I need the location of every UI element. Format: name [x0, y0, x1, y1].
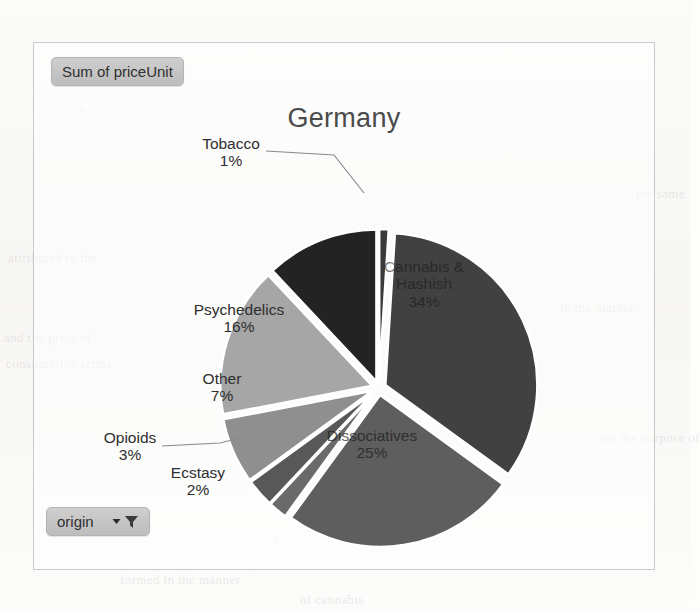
- slice-label-ecstasy: Ecstasy 2%: [154, 464, 242, 499]
- slice-label-other: Other 7%: [182, 370, 262, 405]
- origin-filter-label: origin: [57, 513, 94, 530]
- slice-label-opioids: Opioids 3%: [90, 429, 170, 464]
- chevron-down-icon[interactable]: [112, 518, 121, 525]
- pie-svg: [34, 43, 656, 571]
- slice-label-psychedelics: Psychedelics 16%: [174, 301, 304, 336]
- leader-line-tobacco: [266, 151, 364, 193]
- bleed-text: formed in the manner: [120, 572, 240, 588]
- slice-label-dissociatives: Dissociatives 25%: [302, 427, 442, 462]
- origin-filter-button[interactable]: origin: [46, 507, 150, 536]
- bleed-text: of cannabis: [300, 592, 364, 608]
- slice-label-cannabis-hashish: Cannabis & Hashish 34%: [364, 258, 484, 310]
- pivot-chart-frame[interactable]: Sum of priceUnit Germany Tobacco 1% Psyc…: [33, 42, 655, 570]
- funnel-filter-icon[interactable]: [124, 514, 139, 529]
- filter-icon-group[interactable]: [112, 514, 139, 529]
- slice-label-tobacco: Tobacco 1%: [186, 135, 276, 170]
- pie-chart[interactable]: Tobacco 1% Psychedelics 16% Other 7% Opi…: [34, 43, 656, 571]
